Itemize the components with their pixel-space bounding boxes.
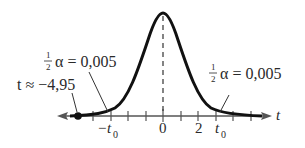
zero-label: 0 xyxy=(159,120,167,136)
point-annotation-leader xyxy=(72,93,77,112)
axis-label-t: t xyxy=(276,107,281,123)
t-distribution-diagram: 1 2 α = 0,005 1 2 α = 0,005 t ≈ −4,95 −t… xyxy=(0,0,305,148)
critical-point xyxy=(74,112,82,120)
right-fraction-num: 1 xyxy=(211,62,216,72)
left-annotation-leader xyxy=(89,72,108,112)
right-alpha-text: α = 0,005 xyxy=(220,65,281,82)
t0-subscript: 0 xyxy=(221,129,226,140)
left-fraction-num: 1 xyxy=(46,50,51,60)
neg-t0-subscript: 0 xyxy=(113,129,118,140)
t0-label: t xyxy=(215,120,220,136)
left-tail-annotation: 1 2 α = 0,005 xyxy=(44,50,116,72)
right-fraction-den: 2 xyxy=(211,74,216,84)
left-alpha-text: α = 0,005 xyxy=(55,53,116,70)
two-label: 2 xyxy=(195,120,203,136)
neg-t0-label: −t xyxy=(97,120,112,136)
left-fraction-den: 2 xyxy=(46,62,51,72)
point-annotation: t ≈ −4,95 xyxy=(17,76,75,93)
right-annotation-leader xyxy=(220,95,229,112)
right-tail-annotation: 1 2 α = 0,005 xyxy=(209,62,281,84)
